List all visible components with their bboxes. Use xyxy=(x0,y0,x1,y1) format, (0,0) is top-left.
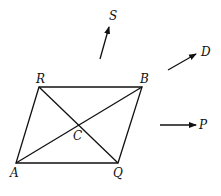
point-label-q: Q xyxy=(113,167,123,179)
point-label-a: A xyxy=(10,167,19,179)
vector-label-s: S xyxy=(109,10,117,22)
vector-label-p: P xyxy=(199,119,207,131)
vector-label-d: D xyxy=(201,46,211,58)
diagonal-rq xyxy=(39,87,118,163)
diagram: A Q B R C S D P xyxy=(0,0,221,196)
vector-d-arrow xyxy=(168,54,196,70)
point-label-c: C xyxy=(73,130,82,142)
parallelogram-figure xyxy=(0,0,221,196)
vector-s-arrow xyxy=(100,27,109,59)
point-label-b: B xyxy=(140,73,149,85)
point-label-r: R xyxy=(36,73,45,85)
